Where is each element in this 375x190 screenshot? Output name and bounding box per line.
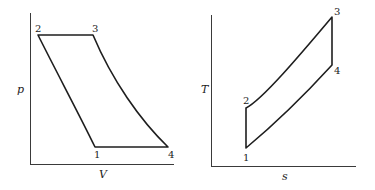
ts-point-2-label: 2: [243, 95, 249, 106]
ts-x-axis-label: s: [282, 170, 288, 183]
ts-cycle-path: [246, 17, 332, 148]
diagram-canvas: 2 3 1 4 p V 1 2 3 4 T s: [0, 0, 375, 190]
pv-x-axis-label: V: [99, 168, 108, 181]
pv-point-1-label: 1: [94, 149, 100, 160]
ts-point-1-label: 1: [243, 152, 249, 163]
ts-diagram: 1 2 3 4 T s: [201, 6, 356, 183]
ts-y-axis-label: T: [201, 83, 210, 96]
pv-y-axis-label: p: [17, 83, 24, 96]
pv-diagram: 2 3 1 4 p V: [17, 13, 174, 181]
pv-point-3-label: 3: [92, 23, 98, 34]
pv-point-4-label: 4: [168, 149, 174, 160]
pv-cycle-path: [38, 35, 168, 147]
pv-point-2-label: 2: [35, 23, 41, 34]
ts-point-4-label: 4: [334, 65, 340, 76]
ts-point-3-label: 3: [334, 6, 340, 17]
